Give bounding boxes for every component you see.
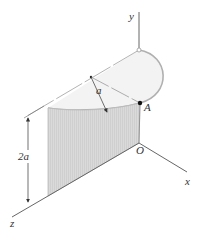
radius-label: a: [96, 84, 102, 96]
cylindrical-surface-diagram: y a A x z O 2a: [0, 0, 201, 234]
point-a-label: A: [143, 101, 151, 113]
point-a: [138, 101, 142, 105]
height-dim-ext-top: [24, 106, 44, 118]
top-point-open: [137, 48, 141, 52]
origin-label: O: [136, 144, 144, 156]
y-axis-label: y: [128, 10, 134, 22]
x-axis-label: x: [184, 175, 190, 187]
z-axis-label: z: [9, 217, 15, 229]
curved-surface: [48, 103, 140, 196]
height-label: 2a: [18, 150, 30, 162]
x-axis: [139, 143, 187, 172]
